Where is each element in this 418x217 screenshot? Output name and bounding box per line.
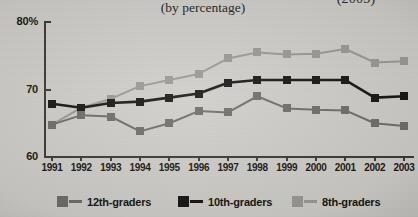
legend-label: 12th-graders	[87, 196, 151, 208]
legend-line-icon	[69, 200, 82, 203]
data-point	[341, 106, 349, 114]
data-point	[371, 94, 379, 102]
chart-legend: 12th-graders10th-graders8th-graders	[0, 186, 418, 217]
data-point	[283, 50, 291, 58]
data-point	[253, 92, 261, 100]
data-point	[400, 92, 408, 100]
chart-series-lines	[0, 0, 418, 217]
data-point	[341, 76, 349, 84]
data-point	[283, 76, 291, 84]
data-point	[400, 122, 408, 130]
legend-swatch-icon	[292, 196, 303, 207]
data-point	[165, 119, 173, 127]
legend-item-10th-graders[interactable]: 10th-graders	[178, 186, 272, 217]
legend-item-12th-graders[interactable]: 12th-graders	[57, 186, 151, 217]
legend-swatch-icon	[57, 196, 68, 207]
data-point	[165, 94, 173, 102]
data-point	[165, 76, 173, 84]
data-point	[224, 54, 232, 62]
data-point	[400, 57, 408, 65]
legend-item-8th-graders[interactable]: 8th-graders	[292, 186, 380, 217]
data-point	[107, 99, 115, 107]
data-point	[48, 121, 56, 129]
data-point	[371, 59, 379, 67]
data-point	[312, 106, 320, 114]
legend-line-icon	[190, 200, 203, 203]
data-point	[195, 70, 203, 78]
data-point	[107, 113, 115, 121]
data-point	[195, 107, 203, 115]
data-point	[253, 48, 261, 56]
data-point	[283, 104, 291, 112]
legend-label: 10th-graders	[208, 196, 272, 208]
data-point	[195, 90, 203, 98]
data-point	[48, 100, 56, 108]
data-point	[341, 45, 349, 53]
data-point	[371, 119, 379, 127]
legend-line-icon	[304, 200, 317, 203]
legend-swatch-icon	[178, 196, 189, 207]
data-point	[253, 76, 261, 84]
data-point	[312, 76, 320, 84]
data-point	[224, 79, 232, 87]
data-point	[136, 82, 144, 90]
data-point	[312, 50, 320, 58]
legend-label: 8th-graders	[322, 196, 380, 208]
data-point	[224, 108, 232, 116]
data-point	[77, 111, 85, 119]
data-point	[136, 98, 144, 106]
data-point	[136, 127, 144, 135]
